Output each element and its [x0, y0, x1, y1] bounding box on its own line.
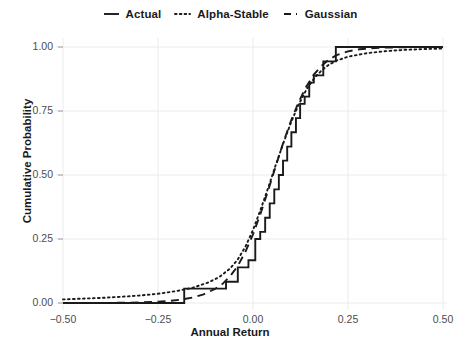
- gridlines: [56, 38, 447, 310]
- y-tick-label: 0.25: [13, 232, 53, 244]
- y-tick-label: 0.75: [13, 104, 53, 116]
- cdf-chart: Actual Alpha-Stable Gaussian Cumulative …: [0, 0, 460, 350]
- axis-tick-marks: [58, 47, 63, 303]
- x-tick-label: −0.25: [133, 313, 183, 325]
- plot-area: [0, 0, 460, 350]
- x-tick-label: 0.00: [228, 313, 278, 325]
- y-tick-label: 1.00: [13, 40, 53, 52]
- x-tick-label: 0.25: [323, 313, 373, 325]
- y-tick-label: 0.00: [13, 296, 53, 308]
- x-tick-label: 0.50: [418, 313, 460, 325]
- x-tick-label: −0.50: [38, 313, 88, 325]
- y-tick-label: 0.50: [13, 168, 53, 180]
